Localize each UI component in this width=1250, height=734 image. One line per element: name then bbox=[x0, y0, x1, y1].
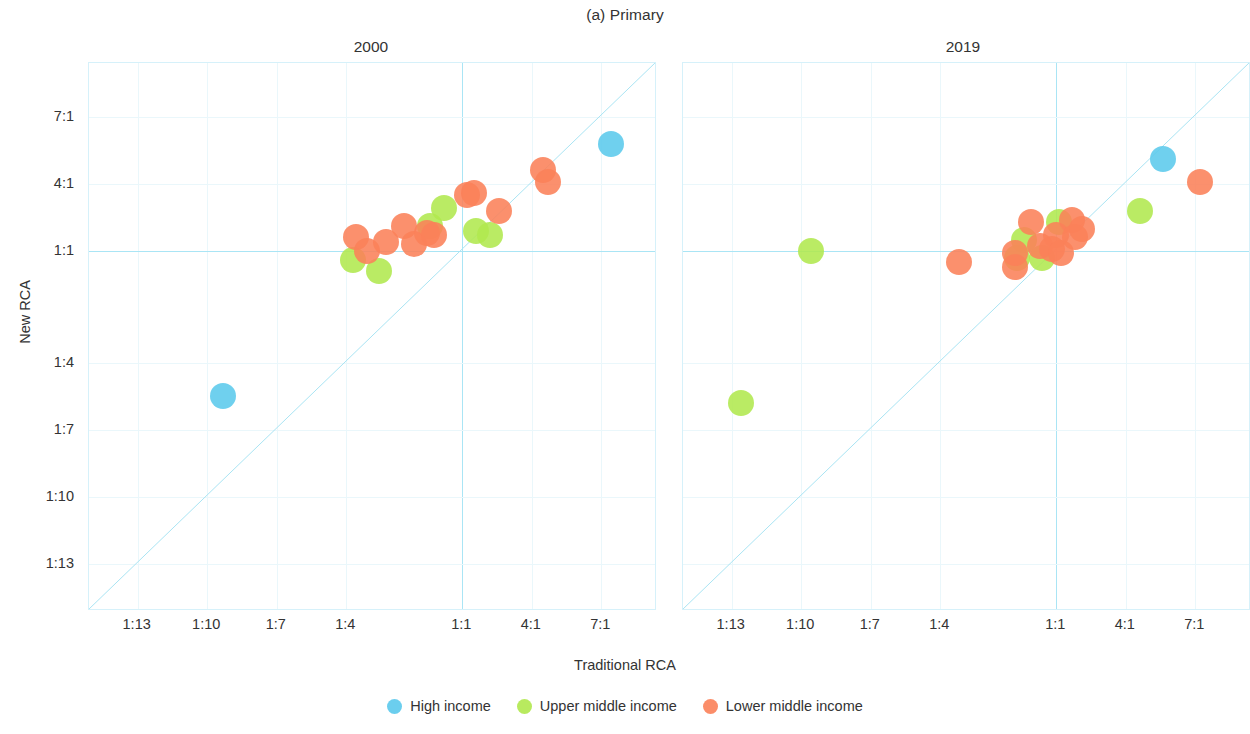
data-point bbox=[210, 383, 236, 409]
x-axis-tick-label: 1:4 bbox=[310, 616, 380, 632]
data-point bbox=[728, 390, 754, 416]
y-axis-tick-label: 4:1 bbox=[8, 175, 74, 191]
gridline-vertical bbox=[732, 63, 733, 609]
gridline-horizontal bbox=[89, 564, 655, 565]
diagonal-reference-line bbox=[683, 63, 1249, 609]
data-point bbox=[1150, 146, 1176, 172]
plot-panel-2000 bbox=[88, 62, 656, 610]
gridline-vertical bbox=[207, 63, 208, 609]
data-point bbox=[477, 222, 503, 248]
gridline-horizontal bbox=[683, 564, 1249, 565]
figure-root: (a) Primary 2000 2019 7:14:11:11:41:71:1… bbox=[0, 0, 1250, 734]
x-axis-tick-label: 4:1 bbox=[496, 616, 566, 632]
data-point bbox=[1127, 198, 1153, 224]
x-axis-tick-label: 7:1 bbox=[565, 616, 635, 632]
gridline-horizontal bbox=[683, 117, 1249, 118]
panel-title-2000: 2000 bbox=[311, 38, 431, 56]
data-point bbox=[1187, 169, 1213, 195]
gridline-horizontal bbox=[89, 184, 655, 185]
legend-label: High income bbox=[410, 698, 491, 714]
x-axis-title: Traditional RCA bbox=[0, 657, 1250, 673]
gridline-horizontal bbox=[89, 363, 655, 364]
data-point bbox=[798, 238, 824, 264]
legend-item[interactable]: Upper middle income bbox=[517, 698, 677, 714]
data-point bbox=[598, 131, 624, 157]
gridline-vertical bbox=[277, 63, 278, 609]
legend-item[interactable]: Lower middle income bbox=[703, 698, 863, 714]
gridline-horizontal bbox=[683, 363, 1249, 364]
data-point bbox=[1002, 240, 1028, 266]
plot-area-2000 bbox=[89, 63, 655, 609]
panel-title-2019: 2019 bbox=[903, 38, 1023, 56]
gridline-vertical bbox=[1056, 63, 1057, 609]
data-point bbox=[421, 222, 447, 248]
diagonal-reference-line bbox=[89, 63, 655, 609]
x-axis-tick-label: 4:1 bbox=[1090, 616, 1160, 632]
x-axis-tick-label: 1:10 bbox=[765, 616, 835, 632]
data-point bbox=[461, 180, 487, 206]
gridline-vertical bbox=[1126, 63, 1127, 609]
legend-swatch-circle-icon bbox=[517, 699, 532, 714]
gridline-vertical bbox=[940, 63, 941, 609]
y-axis-tick-label: 1:13 bbox=[8, 555, 74, 571]
legend-label: Upper middle income bbox=[540, 698, 677, 714]
x-axis-tick-label: 1:7 bbox=[241, 616, 311, 632]
gridline-horizontal bbox=[683, 497, 1249, 498]
gridline-horizontal bbox=[89, 117, 655, 118]
gridline-horizontal bbox=[683, 430, 1249, 431]
gridline-vertical bbox=[532, 63, 533, 609]
y-axis-tick-label: 1:7 bbox=[8, 421, 74, 437]
x-axis-tick-label: 1:1 bbox=[1020, 616, 1090, 632]
y-axis-tick-label: 7:1 bbox=[8, 108, 74, 124]
legend-item[interactable]: High income bbox=[387, 698, 491, 714]
x-axis-tick-label: 1:7 bbox=[835, 616, 905, 632]
gridline-vertical bbox=[346, 63, 347, 609]
plot-panel-2019 bbox=[682, 62, 1250, 610]
gridline-vertical bbox=[138, 63, 139, 609]
legend: High incomeUpper middle incomeLower midd… bbox=[0, 698, 1250, 714]
x-axis-tick-label: 1:13 bbox=[696, 616, 766, 632]
data-point bbox=[431, 195, 457, 221]
gridline-vertical bbox=[1195, 63, 1196, 609]
gridline-vertical bbox=[801, 63, 802, 609]
legend-swatch-circle-icon bbox=[387, 699, 402, 714]
x-axis-tick-label: 1:1 bbox=[426, 616, 496, 632]
gridline-vertical bbox=[462, 63, 463, 609]
gridline-horizontal bbox=[89, 497, 655, 498]
x-axis-tick-label: 7:1 bbox=[1159, 616, 1229, 632]
legend-label: Lower middle income bbox=[726, 698, 863, 714]
gridline-horizontal bbox=[683, 184, 1249, 185]
data-point bbox=[1018, 209, 1044, 235]
x-axis-tick-label: 1:13 bbox=[102, 616, 172, 632]
y-axis-title: New RCA bbox=[17, 252, 33, 372]
data-point bbox=[535, 169, 561, 195]
legend-swatch-circle-icon bbox=[703, 699, 718, 714]
figure-title: (a) Primary bbox=[0, 6, 1250, 24]
y-axis-tick-label: 1:10 bbox=[8, 488, 74, 504]
x-axis-tick-label: 1:10 bbox=[171, 616, 241, 632]
gridline-vertical bbox=[871, 63, 872, 609]
plot-area-2019 bbox=[683, 63, 1249, 609]
data-point bbox=[486, 198, 512, 224]
gridline-horizontal bbox=[89, 430, 655, 431]
x-axis-tick-label: 1:4 bbox=[904, 616, 974, 632]
data-point bbox=[1069, 216, 1095, 242]
data-point bbox=[946, 249, 972, 275]
